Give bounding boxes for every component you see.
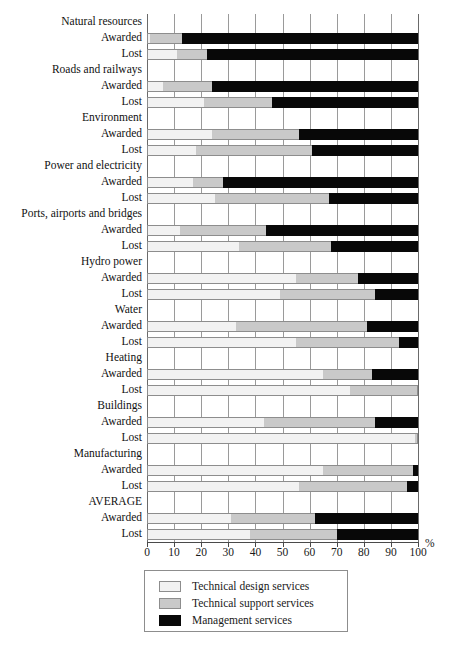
row-label-lost: Lost [122, 144, 147, 156]
row-label-awarded: Awarded [101, 464, 147, 476]
stacked-bar [147, 241, 418, 252]
bar-row: Lost [147, 334, 418, 350]
category-label-water: Water [115, 304, 147, 316]
bar-segment-management [266, 225, 418, 236]
bar-segment-management [375, 289, 418, 300]
legend-item-management[interactable]: Management services [159, 612, 347, 629]
bar-segment-support [196, 145, 313, 156]
category-header-row: Buildings [147, 398, 418, 414]
bar-segment-design [147, 193, 215, 204]
category-header-row: Environment [147, 110, 418, 126]
category-header-row: Ports, airports and bridges [147, 206, 418, 222]
bar-row: Lost [147, 286, 418, 302]
bar-segment-support [239, 241, 331, 252]
bar-segment-support [264, 417, 375, 428]
x-tick-label-50: 50 [277, 547, 289, 559]
x-axis-unit-label: % [425, 538, 435, 550]
bar-segment-design [147, 529, 250, 540]
category-header-row: AVERAGE [147, 494, 418, 510]
category-label-ports-airports-and-bridges: Ports, airports and bridges [21, 208, 147, 220]
bar-segment-management [367, 321, 418, 332]
bar-segment-management [399, 337, 418, 348]
bar-segment-design [147, 481, 299, 492]
bar-row: Awarded [147, 462, 418, 478]
bar-row: Awarded [147, 270, 418, 286]
bar-segment-management [272, 97, 418, 108]
category-label-natural-resources: Natural resources [61, 16, 147, 28]
bar-row: Awarded [147, 366, 418, 382]
stacked-bar [147, 129, 418, 140]
bar-segment-design [147, 337, 296, 348]
bar-segment-design [147, 385, 350, 396]
row-label-lost: Lost [122, 192, 147, 204]
bar-segment-support [350, 385, 418, 396]
bar-segment-management [329, 193, 418, 204]
legend-label-management: Management services [192, 615, 292, 627]
bar-row: Awarded [147, 78, 418, 94]
bar-row: Lost [147, 430, 418, 446]
stacked-bar [147, 33, 418, 44]
row-label-lost: Lost [122, 48, 147, 60]
category-header-row: Roads and railways [147, 62, 418, 78]
bar-segment-design [147, 129, 212, 140]
bar-segment-design [147, 273, 296, 284]
bar-row: Lost [147, 94, 418, 110]
stacked-bar [147, 417, 418, 428]
x-tick-label-90: 90 [385, 547, 397, 559]
stacked-bar [147, 145, 418, 156]
bar-segment-design [147, 289, 280, 300]
x-tick-label-40: 40 [250, 547, 262, 559]
row-label-lost: Lost [122, 528, 147, 540]
row-label-lost: Lost [122, 480, 147, 492]
stacked-bar [147, 225, 418, 236]
bar-row: Awarded [147, 30, 418, 46]
x-tick-label-0: 0 [144, 547, 150, 559]
bar-segment-support [280, 289, 375, 300]
stacked-bar [147, 369, 418, 380]
stacked-bar [147, 321, 418, 332]
bar-segment-design [147, 97, 204, 108]
bar-segment-support [415, 433, 418, 444]
bar-segment-support [193, 177, 223, 188]
bar-segment-support [296, 337, 399, 348]
stacked-bar [147, 97, 418, 108]
bar-segment-management [315, 513, 418, 524]
category-header-row: Manufacturing [147, 446, 418, 462]
bar-row: Awarded [147, 222, 418, 238]
bar-row: Awarded [147, 126, 418, 142]
bar-segment-management [207, 49, 418, 60]
bar-row: Lost [147, 142, 418, 158]
bar-segment-support [236, 321, 366, 332]
row-label-awarded: Awarded [101, 176, 147, 188]
bar-segment-support [150, 33, 183, 44]
legend-item-support[interactable]: Technical support services [159, 595, 347, 612]
bar-row: Awarded [147, 414, 418, 430]
stacked-bar [147, 385, 418, 396]
bar-segment-design [147, 145, 196, 156]
row-label-awarded: Awarded [101, 32, 147, 44]
bar-segment-design [147, 417, 264, 428]
category-label-buildings: Buildings [97, 400, 147, 412]
bar-segment-management [223, 177, 418, 188]
category-label-environment: Environment [82, 112, 147, 124]
category-header-row: Heating [147, 350, 418, 366]
gridline-100 [418, 14, 419, 542]
row-label-awarded: Awarded [101, 368, 147, 380]
stacked-bar [147, 81, 418, 92]
bar-segment-support [299, 481, 407, 492]
legend-item-design[interactable]: Technical design services [159, 578, 347, 595]
bar-segment-support [323, 465, 412, 476]
bar-segment-management [375, 417, 418, 428]
bar-segment-management [312, 145, 418, 156]
category-header-row: Natural resources [147, 14, 418, 30]
bar-segment-design [147, 49, 177, 60]
row-label-awarded: Awarded [101, 320, 147, 332]
bar-segment-design [147, 241, 239, 252]
category-label-roads-and-railways: Roads and railways [52, 64, 147, 76]
bar-segment-support [180, 225, 267, 236]
bar-segment-design [147, 177, 193, 188]
bar-row: Awarded [147, 174, 418, 190]
bar-segment-management [337, 529, 418, 540]
x-tick-label-60: 60 [304, 547, 316, 559]
bar-segment-management [212, 81, 418, 92]
